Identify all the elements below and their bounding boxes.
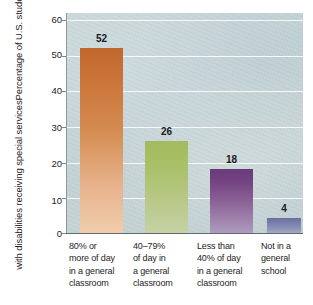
y-tick-label-40: 40: [42, 86, 62, 96]
gridline-60: [67, 20, 303, 21]
x-label-3-line-1: Less than: [197, 240, 242, 252]
x-label-not-in-general-school: Not in a general school: [261, 240, 291, 277]
x-label-40-to-79-percent: 40–79% of day in a general classroom: [133, 240, 173, 290]
bar-less-than-40-percent[interactable]: [210, 169, 253, 233]
x-label-2-line-2: of day in: [133, 252, 173, 264]
bar-80-percent-or-more[interactable]: [80, 48, 123, 233]
bar-value-label-4: 4: [267, 203, 301, 214]
bar-40-to-79-percent[interactable]: [145, 141, 188, 233]
y-axis-title-line-2: with disabilities receiving special serv…: [13, 100, 25, 269]
y-tick-label-30: 30: [42, 123, 62, 133]
y-axis-tick-labels: 60 50 40 30 20 10 0: [40, 0, 62, 305]
y-tick-label-60: 60: [42, 15, 62, 25]
bar-chart: Percentage of U.S. students with disabil…: [0, 0, 313, 305]
x-label-3-line-3: in a general: [197, 265, 242, 277]
x-label-less-than-40-percent: Less than 40% of day in a general classr…: [197, 240, 242, 290]
x-axis-category-labels: 80% or more of day in a general classroo…: [67, 240, 313, 302]
plot-area: 52 26 18 4: [67, 13, 303, 233]
x-label-1-line-1: 80% or: [69, 240, 115, 252]
y-axis-line: [66, 13, 67, 233]
x-label-3-line-4: classroom: [197, 277, 242, 289]
y-tick-label-10: 10: [42, 196, 62, 206]
bar-value-label-3: 18: [210, 154, 253, 165]
y-axis-title: Percentage of U.S. students with disabil…: [0, 18, 38, 236]
x-label-1-line-3: in a general: [69, 265, 115, 277]
x-label-80-percent-or-more: 80% or more of day in a general classroo…: [69, 240, 115, 290]
x-axis-line: [66, 233, 303, 234]
x-label-4-line-3: school: [261, 265, 291, 277]
bar-value-label-1: 52: [80, 33, 123, 44]
y-axis-title-line-1: Percentage of U.S. students: [13, 0, 25, 100]
x-label-1-line-4: classroom: [69, 277, 115, 289]
x-label-2-line-1: 40–79%: [133, 240, 173, 252]
y-tick-label-20: 20: [42, 159, 62, 169]
bar-value-label-2: 26: [145, 126, 188, 137]
x-label-2-line-4: classroom: [133, 277, 173, 289]
x-label-4-line-1: Not in a: [261, 240, 291, 252]
x-label-3-line-2: 40% of day: [197, 252, 242, 264]
bar-not-in-general-school[interactable]: [267, 218, 301, 233]
x-label-2-line-3: a general: [133, 265, 173, 277]
x-label-1-line-2: more of day: [69, 252, 115, 264]
x-label-4-line-2: general: [261, 252, 291, 264]
y-tick-label-50: 50: [42, 50, 62, 60]
y-tick-label-0: 0: [42, 229, 62, 239]
